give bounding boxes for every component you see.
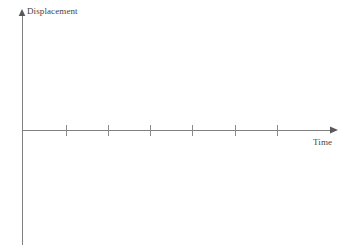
y-axis-arrowhead-icon: [19, 9, 26, 16]
y-axis-label: Displacement: [27, 6, 78, 17]
x-axis-arrowhead-icon: [330, 127, 338, 134]
x-axis-label: Time: [313, 137, 332, 148]
displacement-time-chart: Displacement Time: [0, 0, 357, 252]
axes-drawing: [0, 0, 357, 252]
